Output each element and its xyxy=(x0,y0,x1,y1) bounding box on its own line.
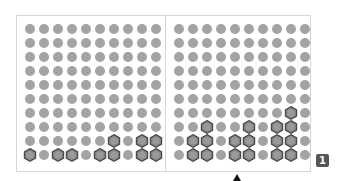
hex-piece[interactable] xyxy=(200,120,214,134)
grid-dot[interactable] xyxy=(107,120,121,134)
grid-dot[interactable] xyxy=(121,64,135,78)
grid-dot[interactable] xyxy=(121,50,135,64)
grid-dot[interactable] xyxy=(149,92,163,106)
hex-piece[interactable] xyxy=(270,120,284,134)
grid-dot[interactable] xyxy=(121,134,135,148)
grid-dot[interactable] xyxy=(172,78,186,92)
grid-dot[interactable] xyxy=(284,36,298,50)
grid-dot[interactable] xyxy=(121,120,135,134)
grid-dot[interactable] xyxy=(284,50,298,64)
grid-dot[interactable] xyxy=(37,22,51,36)
grid-dot[interactable] xyxy=(214,36,228,50)
hex-piece[interactable] xyxy=(186,148,200,162)
hex-piece[interactable] xyxy=(93,148,107,162)
hex-piece[interactable] xyxy=(284,120,298,134)
grid-dot[interactable] xyxy=(79,78,93,92)
grid-dot[interactable] xyxy=(121,106,135,120)
grid-dot[interactable] xyxy=(270,106,284,120)
grid-dot[interactable] xyxy=(172,64,186,78)
grid-dot[interactable] xyxy=(172,50,186,64)
grid-dot[interactable] xyxy=(298,50,312,64)
hex-piece[interactable] xyxy=(186,134,200,148)
grid-dot[interactable] xyxy=(51,36,65,50)
grid-dot[interactable] xyxy=(37,120,51,134)
grid-dot[interactable] xyxy=(37,134,51,148)
grid-dot[interactable] xyxy=(298,134,312,148)
grid-dot[interactable] xyxy=(172,134,186,148)
hex-piece[interactable] xyxy=(65,148,79,162)
grid-dot[interactable] xyxy=(37,92,51,106)
grid-dot[interactable] xyxy=(23,78,37,92)
grid-dot[interactable] xyxy=(79,92,93,106)
grid-dot[interactable] xyxy=(242,50,256,64)
hex-piece[interactable] xyxy=(242,120,256,134)
grid-dot[interactable] xyxy=(200,64,214,78)
grid-dot[interactable] xyxy=(149,64,163,78)
grid-dot[interactable] xyxy=(270,78,284,92)
grid-dot[interactable] xyxy=(65,64,79,78)
hex-piece[interactable] xyxy=(284,106,298,120)
grid-dot[interactable] xyxy=(186,50,200,64)
grid-dot[interactable] xyxy=(135,50,149,64)
grid-dot[interactable] xyxy=(79,134,93,148)
grid-dot[interactable] xyxy=(79,22,93,36)
grid-dot[interactable] xyxy=(65,134,79,148)
hex-piece[interactable] xyxy=(149,148,163,162)
grid-dot[interactable] xyxy=(23,106,37,120)
grid-dot[interactable] xyxy=(149,78,163,92)
grid-dot[interactable] xyxy=(37,78,51,92)
grid-dot[interactable] xyxy=(23,22,37,36)
left-panel[interactable] xyxy=(17,16,164,171)
grid-dot[interactable] xyxy=(172,120,186,134)
grid-dot[interactable] xyxy=(79,36,93,50)
grid-dot[interactable] xyxy=(65,106,79,120)
hex-piece[interactable] xyxy=(284,148,298,162)
grid-dot[interactable] xyxy=(135,106,149,120)
grid-dot[interactable] xyxy=(242,92,256,106)
grid-dot[interactable] xyxy=(135,36,149,50)
grid-dot[interactable] xyxy=(93,120,107,134)
grid-dot[interactable] xyxy=(51,134,65,148)
grid-dot[interactable] xyxy=(93,64,107,78)
grid-dot[interactable] xyxy=(242,78,256,92)
grid-dot[interactable] xyxy=(121,36,135,50)
grid-dot[interactable] xyxy=(228,120,242,134)
grid-dot[interactable] xyxy=(256,36,270,50)
hex-piece[interactable] xyxy=(149,134,163,148)
grid-dot[interactable] xyxy=(79,120,93,134)
grid-dot[interactable] xyxy=(284,92,298,106)
grid-dot[interactable] xyxy=(298,92,312,106)
grid-dot[interactable] xyxy=(23,64,37,78)
grid-dot[interactable] xyxy=(149,36,163,50)
grid-dot[interactable] xyxy=(172,22,186,36)
grid-dot[interactable] xyxy=(298,106,312,120)
grid-dot[interactable] xyxy=(298,36,312,50)
grid-dot[interactable] xyxy=(186,22,200,36)
grid-dot[interactable] xyxy=(65,120,79,134)
grid-dot[interactable] xyxy=(23,50,37,64)
grid-dot[interactable] xyxy=(298,64,312,78)
grid-dot[interactable] xyxy=(214,120,228,134)
grid-dot[interactable] xyxy=(256,92,270,106)
grid-dot[interactable] xyxy=(65,78,79,92)
grid-dot[interactable] xyxy=(79,50,93,64)
grid-dot[interactable] xyxy=(214,64,228,78)
grid-dot[interactable] xyxy=(107,92,121,106)
hex-piece[interactable] xyxy=(135,134,149,148)
grid-dot[interactable] xyxy=(37,50,51,64)
right-panel[interactable] xyxy=(166,16,313,171)
grid-dot[interactable] xyxy=(200,106,214,120)
grid-dot[interactable] xyxy=(23,36,37,50)
grid-dot[interactable] xyxy=(298,120,312,134)
grid-dot[interactable] xyxy=(228,92,242,106)
grid-dot[interactable] xyxy=(284,78,298,92)
grid-dot[interactable] xyxy=(23,120,37,134)
hex-piece[interactable] xyxy=(242,134,256,148)
grid-dot[interactable] xyxy=(135,22,149,36)
grid-dot[interactable] xyxy=(51,50,65,64)
grid-dot[interactable] xyxy=(107,78,121,92)
grid-dot[interactable] xyxy=(214,148,228,162)
grid-dot[interactable] xyxy=(51,106,65,120)
grid-dot[interactable] xyxy=(186,64,200,78)
grid-dot[interactable] xyxy=(256,120,270,134)
